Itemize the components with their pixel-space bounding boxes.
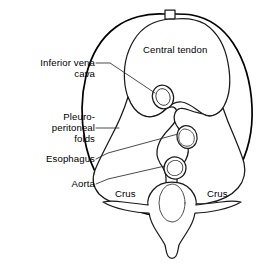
label-crus-right: Crus [207,188,228,199]
label-central-tendon: Central tendon [143,44,207,55]
label-esophagus: Esophagus [0,153,95,164]
central-tendon [124,19,229,117]
label-crus-left: Crus [115,188,136,199]
label-aorta: Aorta [0,178,95,189]
diaphragm-diagram: Inferior vena cava Pleuro- peritoneal fo… [0,0,280,265]
label-inferior-vena-cava: Inferior vena cava [0,57,95,79]
label-pleuroperitoneal-folds: Pleuro- peritoneal folds [0,111,95,145]
sternal-notch [165,10,175,19]
